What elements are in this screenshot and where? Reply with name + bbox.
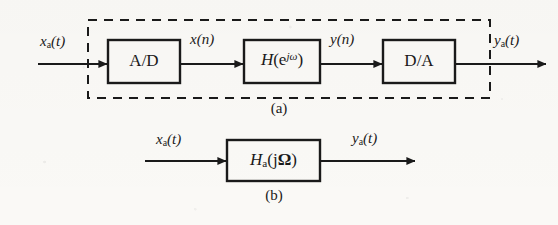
input-label-xa-t-b: xa(t) [156, 132, 181, 148]
ya-b-base: y [352, 130, 359, 146]
xa-base: x [40, 33, 47, 49]
analog-paren-close: ) [291, 150, 297, 169]
xn-base: x [190, 31, 197, 47]
block-ad-converter-label: A/D [108, 52, 180, 69]
analog-H-symbol: H [250, 150, 262, 169]
block-da-converter-label: D/A [383, 52, 455, 69]
filter-paren-close: ) [297, 50, 303, 69]
caption-b: (b) [244, 188, 304, 203]
ya-base: y [494, 32, 501, 48]
block-analog-filter-label: Ha(jΩ) [227, 151, 320, 170]
filter-H-symbol: H [261, 50, 273, 69]
ya-arg: (t) [505, 32, 519, 48]
xa-b-base: x [156, 131, 163, 147]
input-label-xa-t-a: xa(t) [40, 34, 65, 50]
ya-b-arg: (t) [363, 130, 377, 146]
signal-label-y-of-n: y(n) [330, 32, 354, 47]
xn-arg: (n) [197, 31, 215, 47]
xa-b-arg: (t) [167, 131, 181, 147]
signal-label-x-of-n: x(n) [190, 32, 214, 47]
analog-omega-symbol: Ω [278, 150, 292, 169]
filter-exponent: jω [286, 50, 297, 62]
caption-a: (a) [249, 101, 309, 116]
signal-processing-figure: A/D H(ejω) D/A xa(t) x(n) y(n) ya(t) (a)… [0, 0, 558, 225]
xa-arg: (t) [51, 33, 65, 49]
yn-arg: (n) [337, 31, 355, 47]
block-digital-filter-label: H(ejω) [244, 51, 320, 68]
analog-paren-open-j: (j [267, 150, 277, 169]
output-label-ya-t-a: ya(t) [494, 33, 519, 49]
yn-base: y [330, 31, 337, 47]
output-label-ya-t-b: ya(t) [352, 131, 377, 147]
